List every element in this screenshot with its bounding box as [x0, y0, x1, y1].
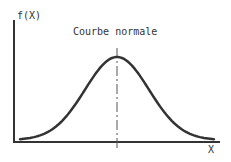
y-axis-label: f(X) — [17, 10, 41, 21]
diagram-title: Courbe normale — [73, 26, 157, 37]
x-axis-label: X — [208, 144, 214, 155]
normal-curve-diagram — [0, 0, 231, 162]
